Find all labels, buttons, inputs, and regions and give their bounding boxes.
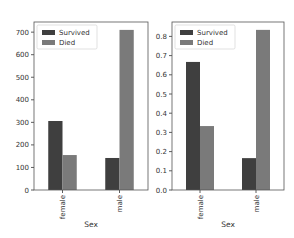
legend-label-survived: Survived <box>197 29 228 37</box>
bar-died-male <box>256 30 270 190</box>
count-chart: femalemale0100200300400500600700SexSurvi… <box>16 22 148 229</box>
x-tick-label: male <box>253 195 261 212</box>
y-tick-label: 700 <box>16 29 29 37</box>
bar-survived-female <box>48 121 62 190</box>
x-axis-label: Sex <box>84 220 98 229</box>
y-tick-label: 400 <box>16 96 29 104</box>
x-tick-label: female <box>197 195 205 219</box>
legend-label-survived: Survived <box>59 29 90 37</box>
x-tick-label: female <box>59 195 67 219</box>
y-tick-label: 0.3 <box>156 129 167 137</box>
legend-swatch-survived <box>180 30 193 35</box>
bar-died-female <box>63 155 77 190</box>
y-tick-label: 300 <box>16 119 29 127</box>
bar-survived-male <box>105 158 119 190</box>
y-tick-label: 0.4 <box>156 110 168 118</box>
legend-label-died: Died <box>197 39 213 47</box>
figure: femalemale0100200300400500600700SexSurvi… <box>0 0 294 238</box>
y-tick-label: 0.0 <box>156 187 167 195</box>
x-axis-label: Sex <box>221 220 235 229</box>
bar-survived-female <box>186 62 200 190</box>
bar-survived-male <box>242 158 256 190</box>
y-tick-label: 0.8 <box>156 33 167 41</box>
legend: SurvivedDied <box>37 25 97 49</box>
y-tick-label: 0.2 <box>156 148 167 156</box>
proportion-chart: femalemale0.00.10.20.30.40.50.60.70.8Sex… <box>156 22 284 229</box>
legend-label-died: Died <box>59 39 75 47</box>
y-tick-label: 0 <box>25 187 29 195</box>
y-tick-label: 500 <box>16 74 29 82</box>
legend-swatch-died <box>42 40 55 45</box>
y-tick-label: 100 <box>16 164 29 172</box>
legend: SurvivedDied <box>175 25 235 49</box>
y-tick-label: 200 <box>16 141 29 149</box>
bar-died-female <box>200 126 214 190</box>
y-tick-label: 0.1 <box>156 167 167 175</box>
legend-swatch-died <box>180 40 193 45</box>
y-tick-label: 0.5 <box>156 91 167 99</box>
x-tick-label: male <box>116 195 124 212</box>
y-tick-label: 0.6 <box>156 71 168 79</box>
y-tick-label: 600 <box>16 51 29 59</box>
bar-died-male <box>120 30 134 190</box>
legend-swatch-survived <box>42 30 55 35</box>
y-tick-label: 0.7 <box>156 52 167 60</box>
